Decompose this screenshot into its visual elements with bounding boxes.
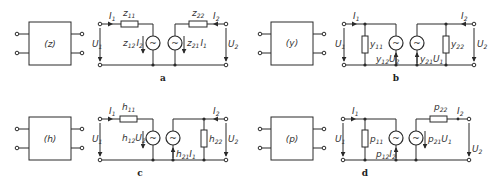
- current-arrow-icon: [461, 22, 466, 27]
- terminal-icon: [322, 146, 326, 150]
- svg-text:~: ~: [169, 133, 177, 143]
- terminal-icon: [15, 51, 19, 55]
- terminal-icon: [258, 146, 262, 150]
- svg-text:p12I2: p12I2: [375, 149, 396, 160]
- current-arrow-icon: [352, 22, 357, 27]
- svg-text:I2: I2: [457, 106, 464, 117]
- panel-c: (h) ~ ~: [15, 102, 238, 178]
- svg-text:z11: z11: [122, 8, 135, 19]
- panel-d: (p) ~ ~: [258, 102, 482, 178]
- terminal-icon: [322, 51, 326, 55]
- box-label: (y): [286, 38, 298, 48]
- svg-text:U2: U2: [228, 134, 239, 145]
- terminal-icon: [80, 146, 84, 150]
- svg-text:I2: I2: [213, 11, 220, 22]
- caption-c: c: [137, 168, 143, 178]
- terminal-icon: [80, 127, 84, 131]
- svg-text:z21I1: z21I1: [186, 38, 207, 49]
- svg-text:I2: I2: [461, 11, 468, 22]
- svg-text:~: ~: [149, 133, 157, 143]
- resistor-p11: [362, 130, 368, 147]
- current-arrow-icon: [108, 117, 113, 122]
- svg-text:p22: p22: [433, 102, 448, 113]
- svg-text:h22: h22: [209, 134, 223, 145]
- current-arrow-icon: [108, 22, 113, 27]
- current-arrow-icon: [213, 22, 218, 27]
- svg-text:~: ~: [171, 38, 179, 48]
- two-port-box-h: (h): [15, 117, 84, 160]
- svg-text:y22: y22: [450, 39, 464, 50]
- equivalent-circuit-z: ~ ~ I1 z11 z22 I2 U1 U2 z1: [92, 8, 239, 83]
- resistor-z22: [189, 21, 207, 27]
- svg-text:I2: I2: [213, 106, 220, 117]
- terminal-icon: [15, 32, 19, 36]
- svg-text:p21U1: p21U1: [427, 134, 452, 145]
- terminal-icon: [15, 127, 19, 131]
- box-label: (h): [44, 134, 57, 144]
- svg-text:~: ~: [392, 133, 400, 143]
- svg-text:~: ~: [412, 133, 420, 143]
- svg-text:U1: U1: [92, 134, 102, 145]
- resistor-h11: [120, 116, 137, 122]
- resistor-p22: [430, 116, 447, 122]
- caption-a: a: [160, 73, 166, 83]
- svg-text:U1: U1: [92, 39, 102, 50]
- svg-text:U2: U2: [228, 39, 239, 50]
- equivalent-circuit-p: ~ ~ I1 p22 I2 U1 U2 p11 p12I2 p21U1: [335, 102, 483, 178]
- svg-text:I1: I1: [353, 11, 359, 22]
- svg-text:I1: I1: [352, 106, 358, 117]
- resistor-y22: [443, 36, 449, 53]
- two-port-box-z: (z): [15, 22, 84, 65]
- svg-text:p11: p11: [369, 134, 383, 145]
- svg-text:y11: y11: [369, 39, 383, 50]
- caption-d: d: [362, 168, 369, 178]
- terminal-icon: [80, 51, 84, 55]
- two-port-box-p: (p): [258, 117, 326, 160]
- caption-b: b: [393, 73, 399, 83]
- svg-text:U2: U2: [477, 39, 488, 50]
- svg-text:U2: U2: [472, 144, 483, 155]
- current-arrow-icon: [213, 117, 218, 122]
- current-arrow-icon: [351, 117, 356, 122]
- svg-text:h11: h11: [122, 102, 135, 113]
- svg-text:~: ~: [413, 38, 421, 48]
- terminal-icon: [258, 32, 262, 36]
- svg-text:h21I1: h21I1: [176, 149, 196, 160]
- svg-text:I1: I1: [109, 11, 115, 22]
- equivalent-circuit-h: ~ ~ I1 h11 I2 U1 U2 h22 h1: [92, 102, 239, 178]
- terminal-icon: [258, 127, 262, 131]
- svg-text:z22: z22: [191, 8, 205, 19]
- terminal-icon: [322, 32, 326, 36]
- box-label: (p): [286, 134, 299, 144]
- terminal-icon: [15, 146, 19, 150]
- svg-text:h12U2: h12U2: [122, 133, 146, 144]
- svg-text:I1: I1: [109, 106, 115, 117]
- svg-text:y21U1: y21U1: [419, 54, 443, 65]
- equivalent-circuit-y: ~ ~ I1 I2 U1 U2 y11 y22 y1: [335, 11, 488, 83]
- two-port-box-y: (y): [258, 22, 326, 65]
- terminal-icon: [80, 32, 84, 36]
- svg-text:U1: U1: [335, 134, 345, 145]
- panel-b: (y) ~ ~: [258, 11, 487, 83]
- svg-text:z12I2: z12I2: [122, 38, 143, 49]
- panel-a: (z) ~ ~: [15, 8, 238, 83]
- resistor-z11: [121, 21, 138, 27]
- box-label: (z): [44, 39, 56, 49]
- resistor-y11: [362, 36, 368, 53]
- svg-text:~: ~: [392, 38, 400, 48]
- terminal-icon: [322, 127, 326, 131]
- terminal-icon: [258, 51, 262, 55]
- svg-text:~: ~: [149, 38, 157, 48]
- resistor-h22: [201, 130, 207, 147]
